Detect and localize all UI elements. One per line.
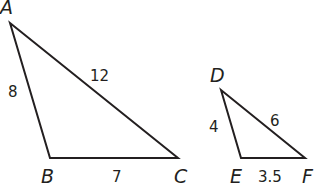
side-label-ef: 3.5 <box>258 168 282 186</box>
triangle-def-shape <box>221 90 305 158</box>
side-label-ab: 8 <box>8 83 18 101</box>
side-label-ac: 12 <box>90 67 109 85</box>
side-label-df: 6 <box>270 112 280 130</box>
vertex-label-b: B <box>41 165 54 187</box>
side-label-de: 4 <box>209 118 219 136</box>
vertex-label-a: A <box>0 0 13 18</box>
triangle-abc-shape <box>10 23 178 158</box>
similar-triangles-diagram: A B C 8 12 7 D E F 4 6 3.5 <box>0 0 324 193</box>
side-label-bc: 7 <box>112 168 122 186</box>
vertex-label-c: C <box>174 165 188 187</box>
vertex-label-d: D <box>210 64 225 86</box>
vertex-label-f: F <box>302 165 314 187</box>
triangle-def: D E F 4 6 3.5 <box>209 64 314 187</box>
triangle-abc: A B C 8 12 7 <box>0 0 188 187</box>
vertex-label-e: E <box>230 165 242 187</box>
